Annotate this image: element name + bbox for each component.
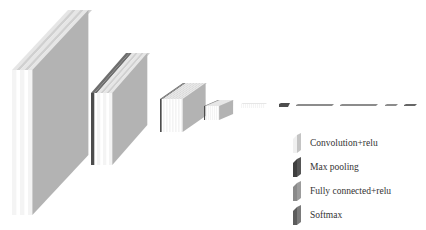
fc-bar-2-shape — [340, 104, 378, 106]
softmax-bar-shape — [404, 104, 417, 106]
layer-slab-front — [245, 104, 246, 108]
layer-slab-front — [109, 93, 112, 165]
layer-slab-front — [261, 104, 262, 108]
layer-slab-front — [181, 99, 183, 132]
layer-slab-front — [172, 99, 174, 132]
legend-item-softmax: Softmax — [293, 203, 423, 227]
conv-block-4 — [204, 100, 234, 120]
layer-slab-front — [257, 104, 258, 108]
fully-connected-swatch-icon — [293, 181, 302, 201]
conv-block-1 — [12, 10, 92, 215]
legend-item-convolution: Convolution+relu — [293, 131, 423, 155]
layer-slab-front — [169, 99, 171, 132]
layer-slab-front — [103, 93, 106, 165]
fc-bar-1 — [296, 104, 334, 106]
fc-bar-3-shape — [385, 104, 398, 106]
softmax-swatch-icon — [293, 205, 302, 225]
layer-slab-front — [12, 70, 16, 215]
legend-label-fully-connected: Fully connected+relu — [310, 186, 391, 196]
softmax-bar — [404, 104, 417, 106]
layer-slab-front — [166, 99, 168, 132]
fc-bar-3 — [385, 104, 398, 106]
layer-slab-front — [247, 104, 248, 108]
layer-slab-front — [210, 106, 211, 120]
layer-slab-front — [20, 70, 24, 215]
conv-block-3 — [160, 83, 207, 132]
layer-slab-front — [163, 99, 165, 132]
layer-slab-front — [91, 93, 94, 165]
layer-slab-front — [212, 106, 213, 120]
layer-slab-front — [251, 104, 252, 108]
legend-label-softmax: Softmax — [310, 210, 342, 220]
fc-bar-1-shape — [296, 104, 334, 106]
layer-slab-front — [178, 99, 180, 132]
layer-slab-front — [204, 106, 205, 120]
legend-label-max-pooling: Max pooling — [310, 162, 359, 172]
layer-slab-front — [160, 99, 162, 132]
layer-slab-front — [216, 106, 217, 120]
layer-slab-front — [28, 70, 32, 215]
legend-item-fully-connected: Fully connected+relu — [293, 179, 423, 203]
layer-slab-front — [175, 99, 177, 132]
layer-slab-front — [243, 104, 244, 108]
layer-slab-front — [263, 104, 264, 108]
pool-bar — [279, 103, 290, 107]
layer-slab-front — [259, 104, 260, 108]
layer-slab-front — [208, 106, 209, 120]
layer-slab-front — [218, 106, 219, 120]
layer-slab-front — [255, 104, 256, 108]
layer-slab-front — [241, 104, 242, 108]
conv-block-2 — [91, 53, 150, 165]
layer-slab-front — [249, 104, 250, 108]
legend-label-convolution: Convolution+relu — [310, 138, 378, 148]
convolution-swatch-icon — [293, 133, 302, 153]
layer-slab-front — [253, 104, 254, 108]
max-pooling-swatch-icon — [293, 157, 302, 177]
layer-slab-front — [206, 106, 207, 120]
legend-item-max-pooling: Max pooling — [293, 155, 423, 179]
pool-bar-shape — [279, 103, 290, 107]
layer-slab-front — [97, 93, 100, 165]
layer-slab-front — [214, 106, 215, 120]
legend: Convolution+relu Max pooling Fully conne… — [293, 131, 423, 227]
conv-block-5 — [241, 103, 267, 108]
fc-bar-2 — [340, 104, 378, 106]
